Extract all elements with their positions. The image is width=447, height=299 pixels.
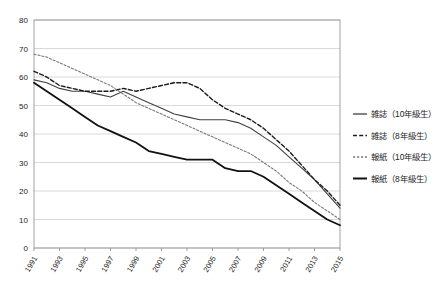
y-axis-tick-label: 0 [24, 244, 29, 253]
x-axis-tick-label: 2007 [227, 255, 243, 274]
x-axis-tick-label: 2003 [176, 255, 192, 274]
line-chart: 01020304050607080 1991199319951997199920… [0, 0, 447, 299]
x-axis-tick-marks [34, 248, 340, 251]
y-axis-tick-labels: 01020304050607080 [19, 16, 28, 253]
legend-label-3: 報紙（8年級生） [371, 174, 432, 184]
y-axis-tick-label: 50 [19, 102, 28, 111]
legend-label-1: 雑誌（8年級生） [371, 131, 432, 141]
y-axis-tick-label: 70 [19, 45, 28, 54]
y-axis-tick-label: 40 [19, 130, 28, 139]
y-axis-tick-label: 10 [19, 216, 28, 225]
x-axis-tick-label: 2009 [252, 255, 268, 274]
y-axis-tick-label: 60 [19, 73, 28, 82]
legend-label-0: 雑誌（10年級生） [371, 109, 436, 119]
y-axis-tick-label: 80 [19, 16, 28, 25]
legend-label-2: 報紙（10年級生） [371, 152, 436, 162]
x-axis-tick-label: 2011 [278, 255, 294, 274]
x-axis-tick-label: 2005 [201, 255, 217, 274]
chart-container: 01020304050607080 1991199319951997199920… [0, 0, 447, 299]
x-axis-tick-label: 2001 [150, 255, 166, 274]
chart-legend: 雑誌（10年級生）雑誌（8年級生）報紙（10年級生）報紙（8年級生） [353, 109, 436, 184]
x-axis-tick-label: 2015 [329, 255, 345, 274]
x-axis-tick-label: 1991 [23, 255, 39, 274]
x-axis-tick-label: 2013 [303, 255, 319, 274]
x-axis-tick-labels: 1991199319951997199920012003200520072009… [23, 255, 345, 274]
y-axis-tick-label: 30 [19, 159, 28, 168]
x-axis-tick-label: 1995 [74, 255, 90, 274]
x-axis-tick-label: 1997 [99, 255, 115, 274]
y-axis-tick-label: 20 [19, 187, 28, 196]
x-axis-tick-label: 1993 [48, 255, 64, 274]
x-axis-tick-label: 1999 [125, 255, 141, 274]
